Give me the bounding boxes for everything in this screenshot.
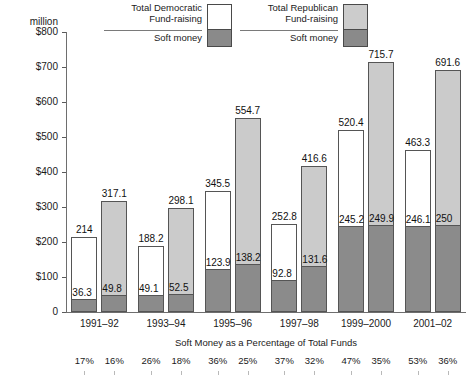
bar-soft-money-fill (368, 225, 394, 312)
y-axis-tick-label: $700 (6, 62, 58, 72)
bar-total-value-label: 298.1 (159, 195, 203, 206)
x-axis-label: 2001–02 (399, 318, 467, 330)
x-axis-line (66, 312, 466, 313)
soft-money-percentage-republican: 32% (295, 355, 333, 366)
y-axis-tick-label: $400 (6, 167, 58, 177)
x-axis-label: 1999–2000 (332, 318, 400, 330)
legend-republican-total-line1: Total Republican (268, 2, 338, 13)
bar-soft-money-fill (168, 294, 194, 312)
bar-soft-money-fill (435, 225, 461, 313)
bar-total-value-label: 214 (62, 224, 106, 235)
bar-dem (71, 237, 97, 312)
y-axis-tick-label: $800 (6, 27, 58, 37)
x-axis-label: 1993–94 (132, 318, 200, 330)
bar-soft-money-fill (338, 226, 364, 312)
y-axis-tick-label: $300 (6, 202, 58, 212)
bar-total-value-label: 691.6 (426, 57, 470, 68)
cropped-tick (218, 371, 219, 375)
bar-total-value-label: 188.2 (129, 233, 173, 244)
legend-democratic-total-label: Total DemocraticFund-raising (106, 2, 202, 24)
y-axis-tick-label: $100 (6, 272, 58, 282)
y-axis-tick-label: $600 (6, 97, 58, 107)
legend-republican-total-label: Total RepublicanFund-raising (242, 2, 338, 24)
bar-dem (138, 246, 164, 312)
cropped-tick (181, 371, 182, 375)
percentage-caption: Soft Money as a Percentage of Total Fund… (66, 337, 466, 348)
bar-soft-money-fill (405, 226, 431, 312)
bar-total-value-label: 463.3 (396, 137, 440, 148)
bar-total-value-label: 252.8 (262, 211, 306, 222)
y-axis-tick-label: $500 (6, 132, 58, 142)
x-axis-label: 1997–98 (265, 318, 333, 330)
chart-container: Total DemocraticFund-raising Soft money … (0, 0, 473, 376)
bar-total-value-label: 345.5 (196, 178, 240, 189)
cropped-tick (284, 371, 285, 375)
bar-rep (101, 201, 127, 312)
bar-soft-money-value-label: 249.9 (369, 213, 409, 224)
bar-soft-money-value-label: 250 (436, 213, 473, 224)
bar-rep (301, 166, 327, 312)
x-axis-label: 1991–92 (65, 318, 133, 330)
cropped-tick (84, 371, 85, 375)
soft-money-percentage-republican: 18% (162, 355, 200, 366)
soft-money-percentage-row: 17%16%26%18%36%25%37%32%47%35%53%36% (66, 355, 466, 369)
bar-total-value-label: 554.7 (226, 105, 270, 116)
bar-rep (368, 62, 394, 312)
bar-soft-money-fill (271, 280, 297, 312)
legend-republican-divider (240, 30, 338, 31)
soft-money-percentage-republican: 35% (362, 355, 400, 366)
x-axis-label: 1995–96 (199, 318, 267, 330)
cropped-tick (151, 371, 152, 375)
bar-rep (235, 118, 261, 312)
bar-soft-money-fill (301, 266, 327, 312)
cropped-tick (248, 371, 249, 375)
bar-soft-money-fill (101, 295, 127, 312)
bar-soft-money-value-label: 49.8 (102, 283, 142, 294)
y-axis-tick-label: $200 (6, 237, 58, 247)
bar-total-value-label: 317.1 (92, 188, 136, 199)
bar-soft-money-fill (235, 264, 261, 312)
cropped-tick (448, 371, 449, 375)
cropped-tick (114, 371, 115, 375)
bar-soft-money-fill (138, 295, 164, 312)
plot-area: 21436.3317.149.8188.249.1298.152.5345.51… (66, 32, 466, 312)
bar-soft-money-fill (205, 269, 231, 312)
cropped-tick (351, 371, 352, 375)
soft-money-percentage-republican: 25% (229, 355, 267, 366)
cropped-tick (381, 371, 382, 375)
legend-democratic-total-line1: Total Democratic (131, 2, 202, 13)
x-axis-labels: 1991–921993–941995–961997–981999–2000200… (66, 318, 466, 332)
bar-dem (205, 191, 231, 312)
soft-money-percentage-republican: 36% (429, 355, 467, 366)
bar-soft-money-value-label: 131.6 (302, 254, 342, 265)
legend-democratic-total-line2: Fund-raising (149, 13, 202, 24)
bar-soft-money-fill (71, 299, 97, 312)
legend-republican-total-line2: Fund-raising (285, 13, 338, 24)
y-axis-tick-label: 0 (6, 307, 58, 317)
legend-swatch-democratic-total (207, 4, 232, 30)
cropped-bottom-row (66, 371, 466, 376)
bar-rep (168, 208, 194, 312)
bar-soft-money-value-label: 52.5 (169, 282, 209, 293)
bar-soft-money-value-label: 138.2 (236, 252, 276, 263)
legend-swatch-republican-total (343, 4, 368, 30)
cropped-tick (418, 371, 419, 375)
legend-democratic-divider (104, 30, 202, 31)
bar-rep (435, 70, 461, 312)
bar-total-value-label: 715.7 (359, 49, 403, 60)
bar-total-value-label: 416.6 (292, 153, 336, 164)
bar-total-value-label: 520.4 (329, 117, 373, 128)
bar-dem (405, 150, 431, 312)
cropped-tick (314, 371, 315, 375)
soft-money-percentage-republican: 16% (95, 355, 133, 366)
